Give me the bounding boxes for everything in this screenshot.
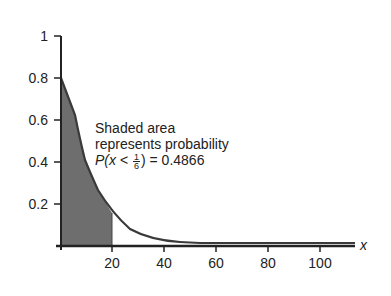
y-tick-label: 0.6 bbox=[29, 112, 49, 128]
y-tick-label: 1 bbox=[40, 28, 48, 44]
probability-annotation: Shaded area represents probability P(x <… bbox=[95, 120, 229, 170]
y-ticks bbox=[54, 36, 61, 204]
x-tick-label: 100 bbox=[308, 255, 332, 271]
y-tick-label: 0.4 bbox=[29, 154, 49, 170]
x-tick-label: 20 bbox=[104, 255, 120, 271]
annotation-line-1: Shaded area bbox=[95, 120, 229, 136]
annotation-formula: P(x < 16) = 0.4866 bbox=[95, 152, 229, 170]
y-tick-label: 0.8 bbox=[29, 70, 49, 86]
x-tick-label: 60 bbox=[208, 255, 224, 271]
fraction: 16 bbox=[133, 153, 140, 170]
x-tick-label: 40 bbox=[156, 255, 172, 271]
annotation-line-2: represents probability bbox=[95, 136, 229, 152]
y-tick-label: 0.2 bbox=[29, 196, 49, 212]
x-axis-label: x bbox=[359, 237, 368, 253]
x-tick-label: 80 bbox=[260, 255, 276, 271]
